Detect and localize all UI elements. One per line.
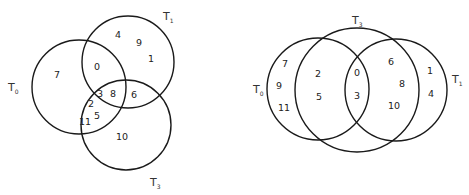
set-label-t0: T0 xyxy=(7,81,19,95)
element-number: 11 xyxy=(79,116,91,127)
element-number: 5 xyxy=(94,110,100,121)
element-number: 6 xyxy=(388,56,394,67)
set-label-t1: T1 xyxy=(162,10,174,24)
element-number: 0 xyxy=(94,61,100,72)
set-label-subscript: 3 xyxy=(157,183,161,190)
element-number: 7 xyxy=(54,69,60,80)
element-number: 4 xyxy=(115,29,121,40)
set-label-subscript: 1 xyxy=(170,17,174,24)
element-number: 6 xyxy=(131,89,137,100)
element-number: 2 xyxy=(88,98,94,109)
element-number: 4 xyxy=(428,88,434,99)
element-number: 8 xyxy=(110,88,116,99)
element-number: 9 xyxy=(276,80,282,91)
set-label-subscript: 0 xyxy=(15,88,19,95)
element-number: 10 xyxy=(388,100,400,111)
venn-diagrams-canvas: T0T1T374910386251110T0T3T179112503681014 xyxy=(0,0,469,195)
right-venn: T0T3T179112503681014 xyxy=(252,14,463,152)
set-label-t3: T3 xyxy=(149,176,161,190)
set-label-subscript: 3 xyxy=(359,21,363,28)
set-label-t0: T0 xyxy=(252,83,264,97)
set-label-subscript: 1 xyxy=(459,80,463,87)
element-number: 8 xyxy=(399,78,405,89)
element-number: 5 xyxy=(316,91,322,102)
element-number: 3 xyxy=(97,88,103,99)
left-venn: T0T1T374910386251110 xyxy=(7,10,174,190)
element-number: 11 xyxy=(278,102,290,113)
element-number: 2 xyxy=(315,68,321,79)
set-label-t3: T3 xyxy=(351,14,363,28)
element-number: 10 xyxy=(116,131,128,142)
element-number: 1 xyxy=(148,53,154,64)
set-label-t1: T1 xyxy=(451,73,463,87)
element-number: 9 xyxy=(136,37,142,48)
element-number: 7 xyxy=(282,58,288,69)
element-number: 3 xyxy=(354,90,360,101)
element-number: 0 xyxy=(354,67,360,78)
element-number: 1 xyxy=(427,65,433,76)
set-label-subscript: 0 xyxy=(260,90,264,97)
